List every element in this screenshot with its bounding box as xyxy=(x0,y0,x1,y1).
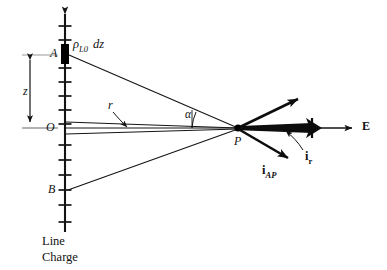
point-p-group xyxy=(234,99,352,158)
label-distance-z: z xyxy=(23,85,28,97)
rays-to-p xyxy=(66,55,238,190)
ray-o-lower xyxy=(66,129,238,134)
ray-o-upper xyxy=(66,122,238,128)
charge-element-block xyxy=(61,44,69,64)
caption-line-2: Charge xyxy=(42,251,78,264)
r-leader xyxy=(113,112,127,127)
leader-r xyxy=(113,112,127,127)
caption-line-1: Line xyxy=(42,235,65,248)
line-charge-diagram: A O B P z r α ρL0dz ir iAP E Line Charge xyxy=(0,0,387,270)
vector-i-ap xyxy=(240,130,288,158)
ray-b-to-p xyxy=(68,129,238,190)
label-unit-vector-ir: ir xyxy=(305,150,312,165)
leader-i-r xyxy=(286,131,303,150)
label-unit-vector-iap: iAP xyxy=(262,164,276,179)
dz-symbol: dz xyxy=(93,37,104,51)
ir-subscript: r xyxy=(308,156,312,166)
label-angle-alpha: α xyxy=(185,109,191,121)
label-point-o: O xyxy=(46,121,55,133)
label-distance-r: r xyxy=(108,99,113,111)
iap-subscript: AP xyxy=(265,170,276,180)
label-charge-element: ρL0dz xyxy=(73,38,104,53)
label-point-a: A xyxy=(50,47,57,59)
diagram-canvas xyxy=(0,0,387,270)
vector-de-upper xyxy=(240,99,298,127)
label-field-e: E xyxy=(362,120,370,132)
angle-alpha-arc xyxy=(192,112,196,128)
rho-subscript: L0 xyxy=(79,44,88,54)
ray-a-to-p xyxy=(69,55,238,128)
vector-i-r-body xyxy=(240,123,312,133)
line-charge-axis xyxy=(59,14,72,232)
label-point-p: P xyxy=(234,135,241,147)
label-point-b: B xyxy=(48,183,55,195)
